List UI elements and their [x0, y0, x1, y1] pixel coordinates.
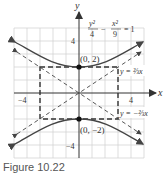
- figure-caption: Figure 10.22: [3, 161, 65, 173]
- vertex-upper-label: (0, 2): [80, 54, 100, 64]
- asymptote-negative-label: y = −⅔x: [119, 107, 157, 118]
- hyperbola-figure: x y −4 4 4 −4 (0, 2) (0, −2) y² 4 − x² 9…: [0, 0, 168, 178]
- vertex-lower: [76, 116, 81, 121]
- svg-text:= 1: = 1: [124, 25, 135, 34]
- tick-x-neg4: −4: [18, 96, 27, 105]
- tick-y-pos4: 4: [71, 37, 75, 46]
- svg-text:y = −⅔x: y = −⅔x: [119, 109, 148, 118]
- svg-text:y = ⅔x: y = ⅔x: [119, 67, 143, 76]
- asymptote-positive-label: y = ⅔x: [119, 65, 154, 76]
- svg-text:−: −: [101, 25, 106, 34]
- vertex-upper: [76, 64, 81, 69]
- svg-text:x²: x²: [111, 19, 119, 28]
- hyperbola-equation: y² 4 − x² 9 = 1: [88, 19, 135, 39]
- tick-x-pos4: 4: [129, 96, 133, 105]
- svg-text:9: 9: [113, 30, 117, 39]
- svg-text:4: 4: [90, 30, 94, 39]
- tick-y-neg4: −4: [66, 142, 75, 151]
- y-axis-label: y: [74, 0, 80, 11]
- x-axis-label: x: [157, 87, 163, 98]
- svg-text:y²: y²: [88, 19, 96, 28]
- vertex-lower-label: (0, −2): [80, 125, 105, 135]
